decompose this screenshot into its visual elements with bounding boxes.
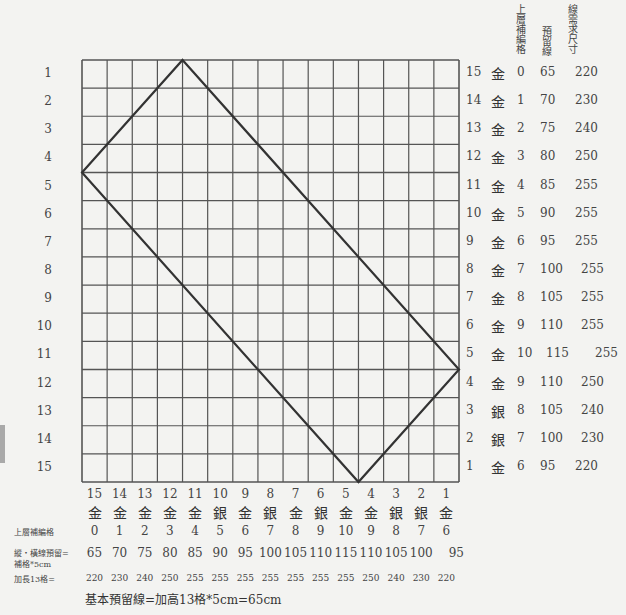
bottom-label-reserve-1: 縱・橫線預留=: [14, 548, 69, 559]
right-cell-upper: 7: [517, 431, 525, 445]
bottom-cell-num: 11: [183, 487, 208, 501]
left-row-number: 2: [12, 94, 52, 108]
bottom-cell-type: 金: [333, 502, 358, 522]
right-cell-reserve: 110: [540, 318, 563, 332]
right-cell-num: 5: [466, 346, 474, 360]
bottom-cell-reserve: 90: [208, 546, 233, 560]
right-cell-type: 金: [491, 344, 505, 364]
bottom-cell-type: 銀: [409, 502, 434, 522]
right-cell-num: 4: [466, 375, 474, 389]
bottom-cell-upper: 5: [208, 524, 233, 538]
right-cell-num: 3: [466, 403, 474, 417]
bottom-cell-num: 12: [157, 487, 182, 501]
bottom-cell-reserve: 100: [409, 546, 434, 560]
right-cell-upper: 5: [517, 206, 525, 220]
bottom-cell-type: 金: [183, 502, 208, 522]
right-cell-num: 10: [466, 206, 481, 220]
bottom-cell-type: 金: [283, 502, 308, 522]
right-cell-required: 220: [575, 459, 598, 473]
bottom-cell-type: 銀: [258, 502, 283, 522]
left-row-number: 12: [12, 376, 52, 390]
left-row-number: 5: [12, 179, 52, 193]
bottom-label-extend: 加長13格=: [14, 574, 55, 585]
right-cell-type: 金: [491, 63, 505, 83]
right-cell-upper: 1: [517, 93, 525, 107]
bottom-cell-type: 金: [233, 502, 258, 522]
bottom-cell-upper: 9: [358, 524, 383, 538]
left-row-number: 14: [12, 432, 52, 446]
right-cell-required: 250: [575, 149, 598, 163]
bottom-cell-upper: 8: [384, 524, 409, 538]
right-cell-reserve: 105: [540, 403, 563, 417]
right-cell-required: 240: [581, 403, 604, 417]
right-cell-type: 金: [491, 91, 505, 111]
bottom-cell-extend: 220: [82, 573, 107, 583]
right-cell-num: 12: [466, 149, 481, 163]
bottom-cell-type: 金: [434, 502, 459, 522]
right-cell-upper: 6: [517, 234, 525, 248]
right-cell-type: 金: [491, 457, 505, 477]
right-cell-num: 7: [466, 290, 474, 304]
left-row-number: 15: [12, 460, 52, 474]
right-cell-reserve: 95: [540, 459, 555, 473]
bottom-cell-upper: 10: [333, 524, 358, 538]
bottom-cell-upper: 7: [258, 524, 283, 538]
bottom-cell-extend: 255: [283, 573, 308, 583]
right-cell-required: 255: [581, 262, 604, 276]
right-cell-required: 255: [575, 234, 598, 248]
right-cell-reserve: 100: [540, 262, 563, 276]
bottom-cell-upper: 2: [132, 524, 157, 538]
bottom-cell-reserve: 100: [258, 546, 283, 560]
header-reserve-line: 預留線: [540, 26, 551, 56]
right-cell-required: 230: [581, 431, 604, 445]
bottom-cell-num: 14: [107, 487, 132, 501]
bottom-cell-num: 3: [384, 487, 409, 501]
right-cell-reserve: 75: [540, 121, 555, 135]
right-cell-type: 金: [491, 119, 505, 139]
bottom-cell-extend: 250: [358, 573, 383, 583]
bottom-cell-upper: 8: [283, 524, 308, 538]
bottom-cell-type: 銀: [384, 502, 409, 522]
bottom-cell-type: 銀: [308, 502, 333, 522]
right-cell-required: 220: [575, 65, 598, 79]
bottom-cell-type: 金: [107, 502, 132, 522]
bottom-cell-extend: 255: [308, 573, 333, 583]
right-cell-num: 13: [466, 121, 481, 135]
left-row-number: 11: [12, 347, 52, 361]
right-cell-reserve: 95: [540, 234, 555, 248]
bottom-cell-extend: 220: [434, 573, 459, 583]
right-cell-reserve: 70: [540, 93, 555, 107]
bottom-cell-extend: 230: [409, 573, 434, 583]
bottom-cell-reserve: 85: [183, 546, 208, 560]
bottom-cell-type: 金: [82, 502, 107, 522]
right-cell-reserve: 80: [540, 149, 555, 163]
bottom-cell-extend: 230: [107, 573, 132, 583]
bottom-cell-extend: 240: [132, 573, 157, 583]
right-cell-required: 255: [581, 318, 604, 332]
bottom-cell-extend: 255: [233, 573, 258, 583]
right-cell-upper: 8: [517, 290, 525, 304]
left-row-number: 9: [12, 291, 52, 305]
bottom-cell-type: 銀: [208, 502, 233, 522]
bottom-cell-extend: 255: [183, 573, 208, 583]
right-cell-type: 金: [491, 373, 505, 393]
bottom-cell-num: 2: [409, 487, 434, 501]
right-cell-upper: 3: [517, 149, 525, 163]
right-cell-type: 金: [491, 288, 505, 308]
right-cell-required: 255: [595, 346, 618, 360]
bottom-cell-type: 金: [132, 502, 157, 522]
right-cell-upper: 0: [517, 65, 525, 79]
left-row-number: 7: [12, 235, 52, 249]
right-cell-type: 金: [491, 260, 505, 280]
right-cell-num: 1: [466, 459, 474, 473]
right-cell-num: 11: [466, 178, 481, 192]
right-cell-type: 金: [491, 232, 505, 252]
bottom-cell-type: 金: [358, 502, 383, 522]
left-row-number: 10: [12, 319, 52, 333]
right-cell-upper: 4: [517, 178, 525, 192]
right-cell-num: 6: [466, 318, 474, 332]
bottom-cell-upper: 3: [157, 524, 182, 538]
bottom-cell-reserve: 110: [308, 546, 333, 560]
right-cell-type: 銀: [491, 429, 505, 449]
weaving-grid-diagram: [0, 0, 626, 615]
